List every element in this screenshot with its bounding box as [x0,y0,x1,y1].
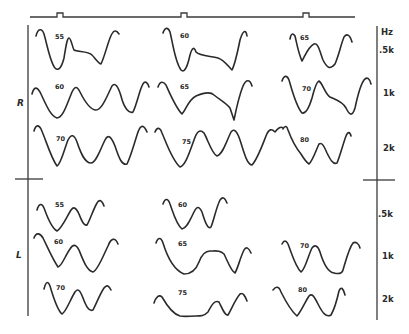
right-axis [363,26,395,320]
left-ear-label: L [16,250,22,260]
level-label: 60 [54,238,64,246]
freq-label-lower-05k: .5k [378,209,393,219]
level-label: 70 [300,242,310,250]
level-label: 75 [178,289,188,297]
trace-r-1k-65: 65 [158,81,252,120]
level-label: 70 [56,135,66,143]
level-label: 55 [55,33,65,41]
freq-label-lower-1k: 1k [382,251,394,261]
unit-label: Hz [381,27,393,37]
right-ear-label: R [17,98,24,108]
level-label: 65 [178,240,188,248]
trace-r-2k-80: 80 [283,126,351,164]
freq-label-upper-05k: .5k [379,45,394,55]
trace-l-1k-60: 60 [34,234,118,272]
level-label: 60 [55,83,65,91]
level-label: 70 [56,284,66,292]
trace-r-05k-65: 65 [290,34,352,67]
left-axis [15,25,43,316]
freq-label-lower-2k: 2k [382,294,394,304]
level-label: 60 [180,32,190,40]
trace-l-2k-80: 80 [273,286,345,316]
level-label: 70 [302,85,312,93]
trace-l-05k-55: 55 [37,201,104,231]
level-label: 60 [178,201,188,209]
waveform-figure: R L Hz .5k 1k 2k .5k 1k 2k 55 60 65 60 6… [0,0,409,334]
freq-label-upper-2k: 2k [383,143,395,153]
trace-r-05k-55: 55 [36,30,119,70]
level-label: 65 [180,83,190,91]
trace-r-1k-70: 70 [282,76,371,114]
trace-r-1k-60: 60 [32,82,149,118]
freq-label-upper-1k: 1k [383,88,395,98]
trace-r-05k-60: 60 [163,28,247,71]
trace-r-2k-70: 70 [34,126,147,166]
trace-l-2k-70: 70 [44,283,111,314]
trace-l-1k-70: 70 [282,241,360,274]
level-label: 80 [300,136,310,144]
level-label: 80 [298,286,308,294]
level-label: 65 [300,34,310,42]
stimulus-timing-line [30,13,355,17]
level-label: 75 [182,138,192,146]
level-label: 55 [55,201,65,209]
trace-l-05k-60: 60 [163,198,227,229]
trace-l-2k-75: 75 [154,289,247,316]
trace-r-2k-75: 75 [155,127,283,167]
trace-l-1k-65: 65 [156,239,251,275]
